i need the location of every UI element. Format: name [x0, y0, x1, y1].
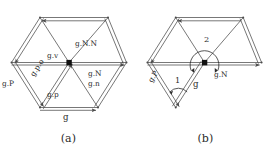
figure-container: g.v g.N.N g.N g.n g.P g.p.o g.p g (a) [0, 0, 275, 147]
label-gN: g.N [88, 70, 102, 77]
label-gv: g.v [47, 52, 58, 59]
caption-b: (b) [137, 132, 274, 145]
panel-a: g.v g.N.N g.N g.n g.P g.p.o g.p g (a) [0, 0, 137, 147]
label-angle-1: 1 [175, 76, 180, 84]
label-gN: g.N [214, 71, 228, 78]
label-gn: g.n [88, 80, 100, 87]
center-node [66, 60, 71, 65]
panel-b: 2 1 g.N g.P g (b) [137, 0, 274, 147]
center-node [202, 60, 207, 65]
label-gp: g.p [47, 91, 59, 98]
label-gP-left: g.P [2, 80, 14, 87]
label-gNN: g.N.N [75, 40, 97, 47]
label-g: g [63, 113, 69, 122]
label-g: g [193, 80, 199, 89]
panel-a-drawing [0, 0, 137, 147]
caption-a: (a) [0, 132, 137, 145]
label-angle-2: 2 [204, 35, 209, 43]
